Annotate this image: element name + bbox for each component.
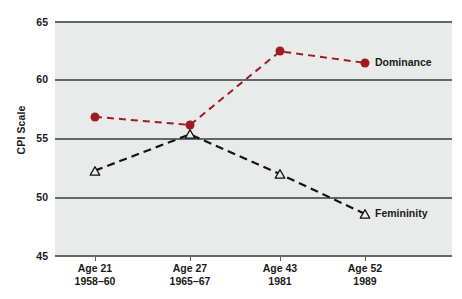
- x-tick-line1: Age 21: [78, 262, 112, 274]
- y-tick-label-65: 65: [22, 16, 48, 28]
- x-tick-line1: Age 27: [173, 262, 207, 274]
- x-tick-label-age-52: Age 52 1989: [310, 262, 420, 288]
- x-tick-label-age-21: Age 21 1958–60: [40, 262, 150, 288]
- plot-area: Dominance Femininity: [55, 22, 452, 256]
- femininity-line: [95, 134, 365, 214]
- y-tick-label-55: 55: [22, 132, 48, 144]
- femininity-point-age-43: [275, 169, 286, 179]
- x-tick-line1: Age 52: [348, 262, 382, 274]
- femininity-point-age-27: [185, 129, 196, 139]
- dominance-point-age-52: [361, 58, 370, 67]
- x-tickmark-age-27: [190, 256, 191, 261]
- femininity-point-age-21: [90, 166, 101, 176]
- dominance-point-age-43: [276, 47, 285, 56]
- x-tickmark-age-43: [280, 256, 281, 261]
- chart-figure: CPI Scale 65 60 55 50 45: [0, 0, 462, 299]
- x-tickmark-age-21: [95, 256, 96, 261]
- x-tick-line1: Age 43: [263, 262, 297, 274]
- y-tick-label-60: 60: [22, 73, 48, 85]
- series-label-dominance: Dominance: [375, 56, 432, 68]
- series-label-femininity: Femininity: [375, 207, 428, 219]
- dominance-point-age-27: [186, 121, 195, 130]
- dominance-line: [95, 51, 365, 125]
- y-axis-tick-labels: 65 60 55 50 45: [22, 0, 48, 299]
- x-tickmark-age-52: [365, 256, 366, 261]
- y-tick-label-50: 50: [22, 191, 48, 203]
- x-tick-line2: 1958–60: [40, 275, 150, 288]
- x-tick-line2: 1989: [310, 275, 420, 288]
- femininity-point-age-52: [360, 209, 371, 219]
- y-tick-label-45: 45: [22, 250, 48, 262]
- dominance-point-age-21: [91, 112, 100, 121]
